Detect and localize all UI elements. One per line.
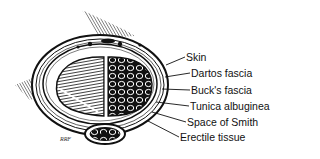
skin-flap-top: [82, 10, 135, 38]
artist-signature: RRF: [59, 136, 71, 142]
label-bucks-fascia: Buck's fascia: [191, 84, 252, 96]
label-erectile-tissue: Erectile tissue: [180, 131, 245, 143]
label-space-of-smith: Space of Smith: [187, 116, 258, 128]
label-dartos-fascia: Dartos fascia: [191, 67, 252, 79]
label-skin: Skin: [186, 51, 206, 63]
label-tunica-albuginea: Tunica albuginea: [190, 100, 270, 112]
